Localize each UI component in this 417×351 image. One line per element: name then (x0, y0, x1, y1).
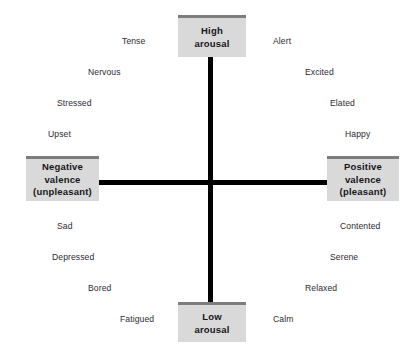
emotion-label-elated: Elated (330, 98, 355, 108)
anchor-high-arousal: High arousal (178, 15, 246, 57)
emotion-label-alert: Alert (273, 36, 291, 46)
emotion-label-excited: Excited (305, 67, 334, 77)
emotion-label-bored: Bored (88, 283, 111, 293)
emotion-label-stressed: Stressed (57, 98, 92, 108)
circumplex-model-diagram: High arousal Low arousal Negative valenc… (0, 0, 417, 351)
emotion-label-upset: Upset (48, 129, 71, 139)
emotion-label-contented: Contented (340, 221, 380, 231)
anchor-negative-valence: Negative valence (unpleasant) (26, 156, 99, 201)
emotion-label-fatigued: Fatigued (120, 314, 154, 324)
emotion-label-sad: Sad (57, 221, 73, 231)
emotion-label-calm: Calm (273, 314, 293, 324)
emotion-label-depressed: Depressed (52, 252, 94, 262)
emotion-label-happy: Happy (345, 129, 370, 139)
anchor-low-arousal-label: Low arousal (194, 311, 229, 336)
emotion-label-nervous: Nervous (88, 67, 121, 77)
anchor-low-arousal: Low arousal (178, 302, 246, 342)
anchor-positive-valence-label: Positive valence (pleasant) (340, 161, 387, 199)
anchor-positive-valence: Positive valence (pleasant) (327, 156, 399, 201)
anchor-high-arousal-label: High arousal (194, 25, 229, 50)
anchor-negative-valence-label: Negative valence (unpleasant) (33, 161, 92, 199)
emotion-label-serene: Serene (330, 252, 358, 262)
emotion-label-tense: Tense (122, 36, 145, 46)
emotion-label-relaxed: Relaxed (305, 283, 337, 293)
valence-axis-line (97, 180, 329, 185)
